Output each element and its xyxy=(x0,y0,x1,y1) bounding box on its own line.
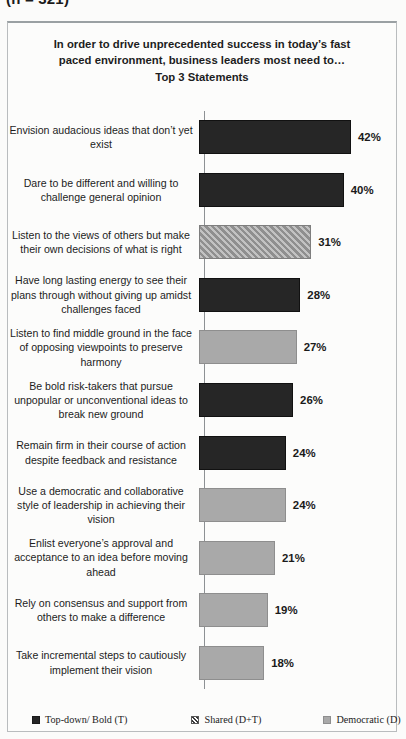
bar-topdown: 28% xyxy=(199,278,300,312)
table-row: Be bold risk-takers that pursue unpopula… xyxy=(8,374,396,427)
bar-category-label: Listen to the views of others but make t… xyxy=(8,228,199,257)
bar-value-label: 24% xyxy=(293,499,316,511)
bar-category-label: Rely on consensus and support from other… xyxy=(8,596,199,625)
bar-zone: 24% xyxy=(199,426,396,479)
bar-value-label: 19% xyxy=(275,604,298,616)
table-row: Listen to the views of others but make t… xyxy=(8,216,396,269)
legend-label-shared: Shared (D+T) xyxy=(204,714,261,725)
bar-zone: 18% xyxy=(199,636,396,689)
bar-zone: 42% xyxy=(199,111,396,164)
bar-zone: 31% xyxy=(199,216,396,269)
bar-category-label: Use a democratic and collaborative style… xyxy=(8,484,199,527)
legend-item-democratic: Democratic (D) xyxy=(323,714,400,725)
chart-container: In order to drive unprecedented success … xyxy=(7,21,397,732)
bar-category-label: Be bold risk-takers that pursue unpopula… xyxy=(8,379,199,422)
legend-label-topdown: Top-down/ Bold (T) xyxy=(45,714,127,725)
table-row: Take incremental steps to cautiously imp… xyxy=(8,636,396,689)
bar-value-label: 21% xyxy=(282,552,305,564)
bar-democratic: 18% xyxy=(199,646,264,680)
bar-value-label: 28% xyxy=(307,289,330,301)
bar-category-label: Dare to be different and willing to chal… xyxy=(8,176,199,205)
legend-swatch-topdown-icon xyxy=(32,716,40,724)
bar-zone: 28% xyxy=(199,269,396,322)
bar-zone: 21% xyxy=(199,531,396,584)
bar-democratic: 24% xyxy=(199,488,286,522)
table-row: Remain firm in their course of action de… xyxy=(8,426,396,479)
bar-value-label: 40% xyxy=(351,184,374,196)
table-row: Listen to find middle ground in the face… xyxy=(8,321,396,374)
sample-size-caption: (n = 321) xyxy=(6,0,69,8)
bar-category-label: Listen to find middle ground in the face… xyxy=(8,326,199,369)
table-row: Have long lasting energy to see their pl… xyxy=(8,269,396,322)
bar-category-label: Have long lasting energy to see their pl… xyxy=(8,273,199,316)
bar-category-label: Enlist everyone’s approval and acceptanc… xyxy=(8,536,199,579)
bar-democratic: 21% xyxy=(199,541,275,575)
bar-zone: 40% xyxy=(199,164,396,217)
chart-title: In order to drive unprecedented success … xyxy=(42,36,362,85)
bar-category-label: Envision audacious ideas that don’t yet … xyxy=(8,123,199,152)
bar-value-label: 42% xyxy=(358,131,381,143)
bar-zone: 26% xyxy=(199,374,396,427)
bar-value-label: 31% xyxy=(318,236,341,248)
bar-topdown: 26% xyxy=(199,383,293,417)
bar-chart-plot-area: Envision audacious ideas that don’t yet … xyxy=(8,111,396,689)
chart-legend: Top-down/ Bold (T) Shared (D+T) Democrat… xyxy=(8,714,396,725)
chart-title-line-1: In order to drive unprecedented success … xyxy=(42,36,362,52)
chart-title-line-3: Top 3 Statements xyxy=(42,69,362,85)
bar-democratic: 27% xyxy=(199,330,297,364)
bar-value-label: 24% xyxy=(293,447,316,459)
bar-topdown: 40% xyxy=(199,173,344,207)
legend-swatch-democratic-icon xyxy=(323,716,331,724)
legend-swatch-shared-icon xyxy=(191,716,199,724)
legend-item-topdown: Top-down/ Bold (T) xyxy=(32,714,127,725)
table-row: Enlist everyone’s approval and acceptanc… xyxy=(8,531,396,584)
chart-title-line-2: paced environment, business leaders most… xyxy=(42,52,362,68)
bar-zone: 24% xyxy=(199,479,396,532)
bar-shared: 31% xyxy=(199,225,311,259)
bar-zone: 19% xyxy=(199,584,396,637)
bar-value-label: 27% xyxy=(304,341,327,353)
bar-topdown: 42% xyxy=(199,120,351,154)
bar-topdown: 24% xyxy=(199,436,286,470)
bar-value-label: 18% xyxy=(271,657,294,669)
bar-category-label: Take incremental steps to cautiously imp… xyxy=(8,648,199,677)
table-row: Use a democratic and collaborative style… xyxy=(8,479,396,532)
table-row: Rely on consensus and support from other… xyxy=(8,584,396,637)
legend-label-democratic: Democratic (D) xyxy=(336,714,400,725)
table-row: Dare to be different and willing to chal… xyxy=(8,164,396,217)
bar-democratic: 19% xyxy=(199,593,268,627)
table-row: Envision audacious ideas that don’t yet … xyxy=(8,111,396,164)
bar-category-label: Remain firm in their course of action de… xyxy=(8,438,199,467)
bar-value-label: 26% xyxy=(300,394,323,406)
legend-item-shared: Shared (D+T) xyxy=(191,714,261,725)
bar-zone: 27% xyxy=(199,321,396,374)
